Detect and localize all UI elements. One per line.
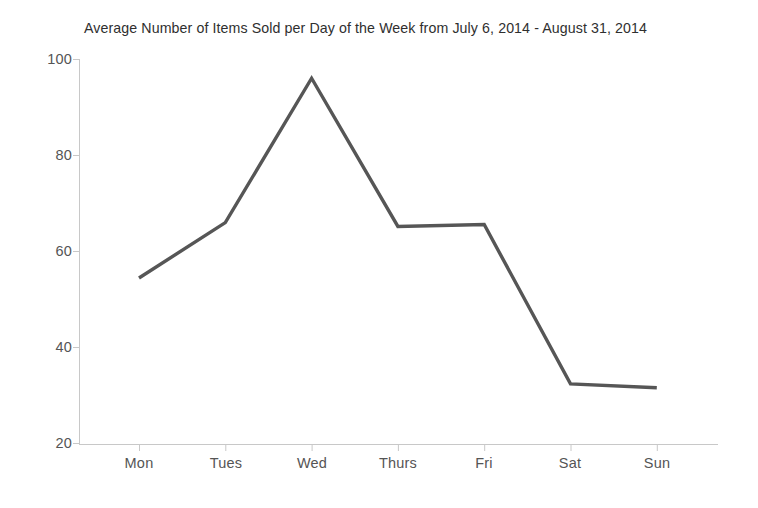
data-series-line [139, 78, 657, 387]
line-chart-figure: Average Number of Items Sold per Day of … [0, 0, 758, 508]
x-axis-tick-marks [140, 444, 658, 451]
y-axis-tick-marks [73, 60, 79, 444]
plot-area [0, 0, 758, 508]
